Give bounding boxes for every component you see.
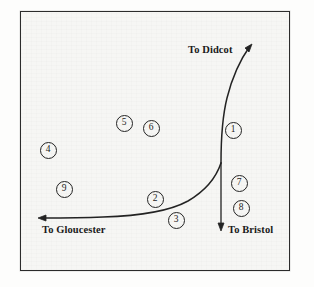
label-to-gloucester: To Gloucester xyxy=(42,224,106,235)
label-to-didcot: To Didcot xyxy=(188,44,233,55)
didcot-route-line xyxy=(221,46,250,163)
bristol-arrow-head xyxy=(218,223,224,231)
gloucester-arrow-head xyxy=(38,215,46,221)
marker-6: 6 xyxy=(143,120,160,137)
marker-2: 2 xyxy=(147,191,164,208)
marker-1: 1 xyxy=(225,122,242,139)
label-to-bristol: To Bristol xyxy=(228,224,273,235)
marker-5: 5 xyxy=(116,115,133,132)
marker-3: 3 xyxy=(168,212,185,229)
marker-7: 7 xyxy=(231,175,248,192)
marker-8: 8 xyxy=(233,200,250,217)
figure-root: To Didcot To Gloucester To Bristol 1 2 3… xyxy=(0,0,314,287)
marker-9: 9 xyxy=(56,181,73,198)
marker-4: 4 xyxy=(40,142,57,159)
